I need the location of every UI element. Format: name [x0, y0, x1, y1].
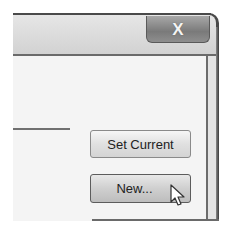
- dialog-window: X Set Current New...: [13, 13, 219, 221]
- set-current-button[interactable]: Set Current: [90, 130, 191, 158]
- title-bar: X: [13, 15, 216, 56]
- mouse-pointer-icon: [170, 184, 188, 208]
- window-frame-top: [13, 13, 211, 15]
- new-label: New...: [116, 181, 152, 196]
- panel-gutter: [208, 56, 216, 221]
- window-frame-right: [216, 27, 219, 221]
- bottom-divider: [92, 219, 219, 221]
- close-icon: X: [172, 21, 183, 38]
- set-current-label: Set Current: [107, 137, 173, 152]
- list-bottom-divider: [13, 128, 70, 130]
- close-button[interactable]: X: [146, 16, 210, 43]
